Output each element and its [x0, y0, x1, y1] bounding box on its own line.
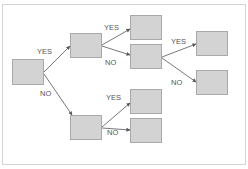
- node-yes-yes: [130, 15, 162, 40]
- node-yes-no-no: [196, 70, 228, 95]
- edge-n1-no: [102, 46, 130, 55]
- node-yes-no: [130, 44, 162, 69]
- node-no-yes: [130, 89, 162, 114]
- label-root-yes: YES: [37, 48, 52, 56]
- label-n1-yes: YES: [104, 24, 119, 32]
- label-root-no: NO: [40, 90, 51, 98]
- root-node: [12, 59, 44, 85]
- label-n1-no: NO: [105, 59, 116, 67]
- label-n1b-no: NO: [171, 79, 182, 87]
- node-no-no: [130, 118, 162, 143]
- edge-n2-yes: [102, 103, 130, 127]
- node-no: [70, 115, 102, 140]
- label-n2-no: NO: [107, 129, 118, 137]
- node-yes: [70, 33, 102, 58]
- label-n1b-yes: YES: [171, 38, 186, 46]
- node-yes-no-yes: [196, 31, 228, 56]
- label-n2-yes: YES: [106, 94, 121, 102]
